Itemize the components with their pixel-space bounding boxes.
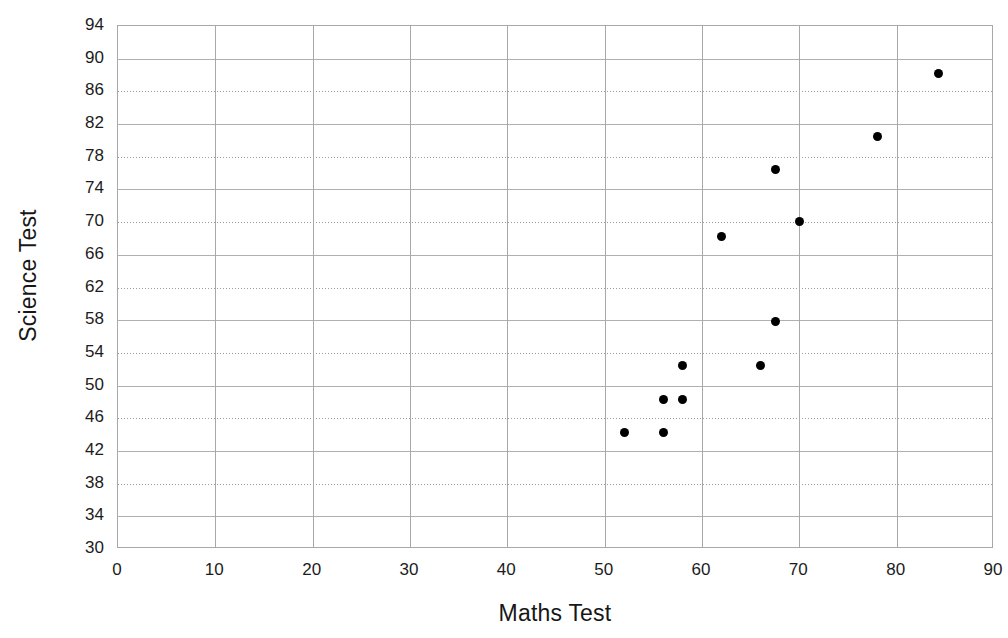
gridline-horizontal <box>118 288 992 289</box>
gridline-horizontal <box>118 91 992 92</box>
x-axis-tick-label: 10 <box>184 560 244 580</box>
y-axis-tick-labels: 3034384246505458626670747882869094 <box>62 0 104 638</box>
x-axis-tick-label: 60 <box>671 560 731 580</box>
data-point <box>678 395 687 404</box>
gridline-horizontal <box>118 418 992 419</box>
x-axis-tick-label: 70 <box>768 560 828 580</box>
data-point <box>771 165 780 174</box>
gridline-horizontal <box>118 59 992 60</box>
gridline-horizontal <box>118 353 992 354</box>
data-point <box>756 361 765 370</box>
y-axis-tick-label: 78 <box>62 146 104 166</box>
gridline-horizontal <box>118 255 992 256</box>
y-axis-tick-label: 42 <box>62 440 104 460</box>
data-point <box>771 317 780 326</box>
gridline-horizontal <box>118 451 992 452</box>
y-axis-tick-label: 46 <box>62 407 104 427</box>
gridline-vertical <box>605 26 606 547</box>
gridline-vertical <box>507 26 508 547</box>
y-axis-tick-label: 58 <box>62 309 104 329</box>
y-axis-tick-label: 94 <box>62 15 104 35</box>
gridline-horizontal <box>118 222 992 223</box>
y-axis-tick-label: 74 <box>62 178 104 198</box>
y-axis-tick-label: 62 <box>62 277 104 297</box>
x-axis-tick-label: 30 <box>379 560 439 580</box>
data-point <box>620 428 629 437</box>
gridline-vertical <box>410 26 411 547</box>
y-axis-tick-label: 34 <box>62 505 104 525</box>
x-axis-title: Maths Test <box>117 600 993 627</box>
gridline-horizontal <box>118 320 992 321</box>
data-point <box>934 69 943 78</box>
y-axis-tick-label: 50 <box>62 375 104 395</box>
gridline-horizontal <box>118 157 992 158</box>
data-point <box>678 361 687 370</box>
x-axis-tick-label: 40 <box>476 560 536 580</box>
y-axis-title: Science Test <box>15 156 42 396</box>
gridline-vertical <box>799 26 800 547</box>
y-axis-tick-label: 54 <box>62 342 104 362</box>
y-axis-tick-label: 30 <box>62 538 104 558</box>
y-axis-tick-label: 66 <box>62 244 104 264</box>
y-axis-tick-label: 86 <box>62 80 104 100</box>
data-point <box>659 395 668 404</box>
x-axis-tick-label: 50 <box>574 560 634 580</box>
x-axis-tick-label: 90 <box>963 560 1008 580</box>
x-axis-tick-label: 20 <box>282 560 342 580</box>
gridline-vertical <box>702 26 703 547</box>
plot-area <box>117 25 993 548</box>
gridline-horizontal <box>118 516 992 517</box>
y-axis-tick-label: 38 <box>62 473 104 493</box>
y-axis-tick-label: 82 <box>62 113 104 133</box>
gridline-horizontal <box>118 386 992 387</box>
gridline-vertical <box>215 26 216 547</box>
gridline-vertical <box>313 26 314 547</box>
scatter-chart: Science Test 303438424650545862667074788… <box>0 0 1008 638</box>
gridline-horizontal <box>118 189 992 190</box>
x-axis-tick-label: 0 <box>87 560 147 580</box>
x-axis-tick-label: 80 <box>866 560 926 580</box>
data-point <box>873 132 882 141</box>
y-axis-tick-label: 90 <box>62 48 104 68</box>
gridline-vertical <box>897 26 898 547</box>
gridline-horizontal <box>118 124 992 125</box>
data-point <box>659 428 668 437</box>
data-point <box>717 232 726 241</box>
data-point <box>795 217 804 226</box>
gridline-horizontal <box>118 484 992 485</box>
y-axis-tick-label: 70 <box>62 211 104 231</box>
